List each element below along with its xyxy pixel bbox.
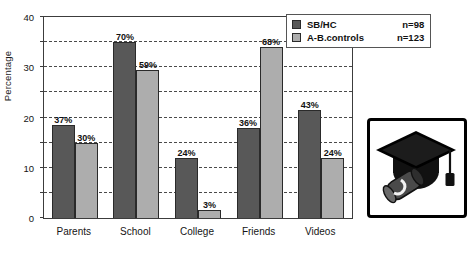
x-axis-label: School <box>120 226 151 237</box>
bar-group: 36%68% <box>229 17 291 218</box>
chart-legend: SB/HC n=98 A-B.controls n=123 <box>286 14 431 48</box>
legend-item-ab-controls: A-B.controls n=123 <box>292 31 424 44</box>
bar-group: 37%30% <box>44 17 106 218</box>
bar-group: 70%59% <box>106 17 168 218</box>
bar-value-label: 36% <box>239 118 257 128</box>
x-axis-label: Videos <box>305 226 335 237</box>
bar: 43% <box>298 110 321 218</box>
y-axis-tick-label: 40 <box>23 12 34 23</box>
legend-item-sb-hc: SB/HC n=98 <box>292 18 424 31</box>
y-axis-title: Percentage <box>2 36 13 116</box>
bar-value-label: 70% <box>116 32 134 42</box>
bar: 30% <box>75 143 98 218</box>
y-axis-tick-label: 30 <box>23 62 34 73</box>
legend-swatch-sb-hc <box>292 20 301 29</box>
x-axis-label: College <box>180 226 214 237</box>
graduation-cap-diploma-icon <box>370 121 464 215</box>
bar: 68% <box>260 47 283 218</box>
bar-value-label: 37% <box>54 115 72 125</box>
bar: 24% <box>175 158 198 218</box>
bar-value-label: 59% <box>139 60 157 70</box>
bar-value-label: 43% <box>301 100 319 110</box>
legend-swatch-ab-controls <box>292 33 301 42</box>
y-axis-tick-label: 20 <box>23 112 34 123</box>
bar-value-label: 24% <box>324 148 342 158</box>
bar-value-label: 3% <box>203 200 216 210</box>
bar-group: 24%3% <box>167 17 229 218</box>
bar: 59% <box>136 70 159 218</box>
bar: 24% <box>321 158 344 218</box>
chart-figure: Percentage 0102030405060708037%30%70%59%… <box>0 0 475 270</box>
x-axis-label: Friends <box>242 226 275 237</box>
graduation-cap-icon-box <box>367 118 467 218</box>
bar-value-label: 68% <box>262 37 280 47</box>
x-axis-label: Parents <box>57 226 91 237</box>
legend-count-ab-controls: n=123 <box>385 32 424 43</box>
legend-label-sb-hc: SB/HC <box>307 19 385 30</box>
legend-count-sb-hc: n=98 <box>390 19 424 30</box>
y-axis-tick-label: 0 <box>29 213 34 224</box>
bar: 3% <box>198 210 221 218</box>
legend-label-ab-controls: A-B.controls <box>307 32 385 43</box>
bar: 70% <box>113 42 136 218</box>
bar: 36% <box>237 128 260 218</box>
bar-value-label: 30% <box>77 133 95 143</box>
bar: 37% <box>52 125 75 218</box>
y-axis-tick-label: 10 <box>23 162 34 173</box>
bar-value-label: 24% <box>177 148 195 158</box>
